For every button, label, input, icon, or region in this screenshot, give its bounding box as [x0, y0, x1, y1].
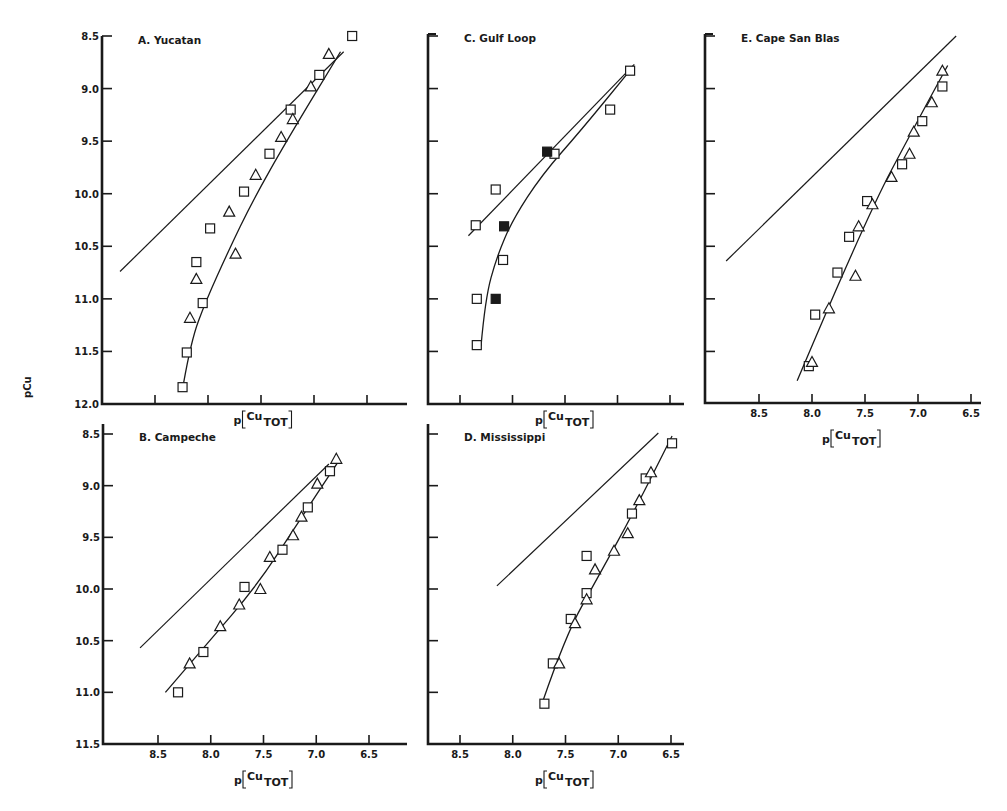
triangle-marker — [184, 312, 195, 322]
square-marker — [286, 105, 295, 114]
svg-text:TOT: TOT — [565, 776, 590, 789]
panel-d: 8.58.07.57.06.5pCuTOTD. Mississippi — [428, 424, 684, 789]
square-marker — [491, 185, 500, 194]
triangle-marker — [250, 169, 261, 179]
triangle-marker — [904, 148, 915, 158]
series-squares — [804, 82, 947, 371]
triangle-marker — [850, 270, 861, 280]
y-tick-label: 9.0 — [81, 84, 99, 95]
y-tick-label: 11.5 — [75, 739, 100, 750]
svg-text:Cu: Cu — [247, 410, 263, 423]
x-tick-label: 7.0 — [609, 749, 627, 760]
square-marker — [472, 294, 481, 303]
panel-title: B. Campeche — [139, 431, 216, 443]
square-marker — [898, 160, 907, 169]
fit-curve — [184, 52, 341, 383]
series-filled-squares — [491, 147, 551, 303]
x-axis-title: pCuTOT — [234, 770, 292, 789]
triangle-marker — [323, 48, 334, 58]
square-marker — [265, 149, 274, 158]
x-tick-label: 7.0 — [307, 749, 325, 760]
y-tick-label: 10.5 — [74, 241, 99, 252]
square-marker — [178, 383, 187, 392]
square-marker — [303, 503, 312, 512]
x-tick-label: 8.0 — [504, 749, 522, 760]
x-axis-title: pCuTOT — [234, 410, 292, 429]
triangle-marker — [191, 273, 202, 283]
square-marker — [606, 105, 615, 114]
triangle-marker — [937, 65, 948, 75]
fit-curve — [165, 460, 339, 692]
svg-text:p: p — [234, 774, 242, 787]
triangle-marker — [230, 248, 241, 258]
axes-frame — [428, 424, 684, 744]
y-tick-label: 11.0 — [75, 687, 100, 698]
square-marker — [845, 232, 854, 241]
x-axis-title: pCuTOT — [822, 429, 880, 448]
y-tick-label: 9.0 — [82, 481, 100, 492]
axes-frame — [103, 424, 407, 744]
square-marker — [198, 299, 207, 308]
square-marker — [540, 699, 549, 708]
svg-text:Cu: Cu — [548, 410, 564, 423]
x-tick-label: 8.5 — [451, 749, 469, 760]
x-axis-title: pCuTOT — [535, 770, 593, 789]
panel-c: pCuTOTC. Gulf Loop — [428, 32, 684, 429]
series-squares — [174, 467, 335, 697]
svg-text:Cu: Cu — [835, 429, 851, 442]
panel-a: 8.59.09.510.010.511.011.512.0pCuTOTA. Yu… — [74, 31, 407, 429]
x-tick-label: 6.5 — [962, 408, 980, 419]
panel-e: 8.58.07.57.06.5pCuTOTE. Cape San Blas — [705, 32, 981, 448]
plot-canvas: 8.59.09.510.010.511.011.512.0pCuTOTA. Yu… — [0, 0, 1007, 811]
square-marker — [811, 310, 820, 319]
square-marker — [582, 551, 591, 560]
square-marker — [472, 341, 481, 350]
panel-title: A. Yucatan — [138, 34, 201, 46]
reference-line — [140, 464, 329, 648]
triangle-marker — [634, 495, 645, 505]
triangle-marker — [305, 81, 316, 91]
triangle-marker — [276, 131, 287, 141]
filled-square-marker — [491, 294, 500, 303]
x-tick-label: 7.0 — [909, 408, 927, 419]
square-marker — [182, 348, 191, 357]
triangle-marker — [287, 114, 298, 124]
svg-text:Cu: Cu — [247, 770, 263, 783]
panel-b: 8.59.09.510.010.511.011.58.58.07.57.06.5… — [75, 424, 407, 789]
y-tick-label: 10.0 — [74, 189, 99, 200]
triangle-marker — [264, 551, 275, 561]
x-tick-label: 8.0 — [803, 408, 821, 419]
square-marker — [833, 268, 842, 277]
square-marker — [240, 582, 249, 591]
y-tick-label: 8.5 — [82, 429, 100, 440]
square-marker — [206, 224, 215, 233]
svg-text:p: p — [535, 774, 543, 787]
y-tick-label: 10.5 — [75, 636, 100, 647]
square-marker — [174, 688, 183, 697]
square-marker — [626, 66, 635, 75]
square-marker — [918, 117, 927, 126]
triangle-marker — [823, 303, 834, 313]
x-tick-label: 6.5 — [360, 749, 378, 760]
square-marker — [627, 509, 636, 518]
square-marker — [499, 255, 508, 264]
y-tick-label: 11.5 — [74, 346, 99, 357]
x-tick-label: 6.5 — [662, 749, 680, 760]
panel-title: E. Cape San Blas — [741, 32, 840, 44]
x-tick-label: 7.5 — [557, 749, 575, 760]
triangle-marker — [224, 206, 235, 216]
x-tick-label: 8.5 — [750, 408, 768, 419]
triangle-marker — [590, 564, 601, 574]
square-marker — [471, 221, 480, 230]
fit-curve — [797, 65, 948, 380]
y-tick-label: 8.5 — [81, 31, 99, 42]
figure: pCu 8.59.09.510.010.511.011.512.0pCuTOTA… — [0, 0, 1007, 811]
shared-y-axis-label: pCu — [22, 376, 33, 398]
square-marker — [325, 467, 334, 476]
x-tick-label: 7.5 — [255, 749, 273, 760]
triangle-marker — [288, 530, 299, 540]
svg-text:p: p — [535, 414, 543, 427]
series-triangles — [807, 65, 948, 366]
x-tick-label: 7.5 — [856, 408, 874, 419]
axes-frame — [428, 34, 684, 404]
